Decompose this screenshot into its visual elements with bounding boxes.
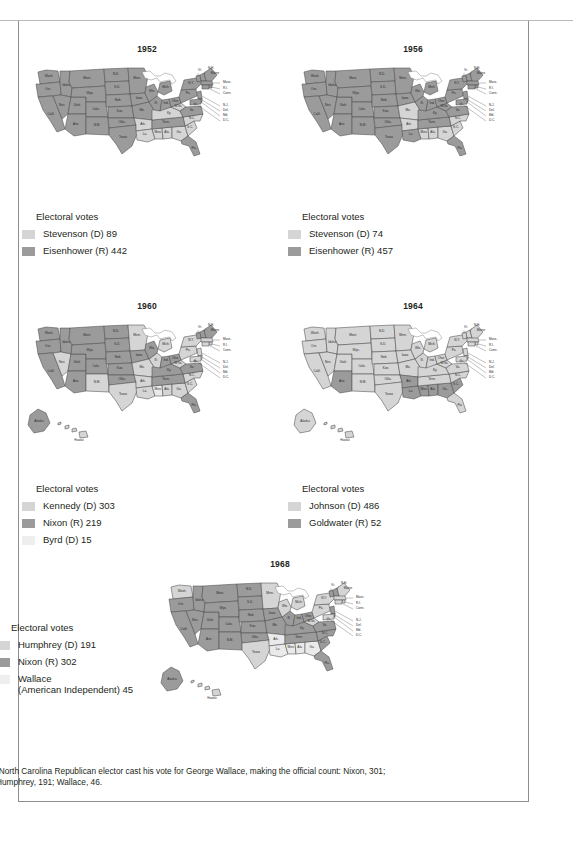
state-label: Ariz.	[73, 122, 79, 126]
state-label: Mich.	[162, 342, 170, 346]
state-label: Calif.	[47, 369, 54, 373]
state-label: Miss.	[154, 387, 161, 391]
leader-line	[468, 96, 486, 106]
state-label: N.C.	[455, 373, 461, 377]
state-hi	[191, 680, 194, 683]
legend-label: Nixon (R) 219	[43, 517, 102, 528]
state-label: Ariz.	[206, 637, 212, 641]
legend-swatch	[0, 675, 10, 684]
state-label: Ohio	[172, 99, 179, 103]
state-label: Nev.	[59, 360, 65, 364]
state-label: N.H.	[474, 66, 480, 70]
state-label: Ky.	[433, 111, 437, 115]
state-label: Neb.	[115, 355, 122, 359]
map-year-1960: 1960	[22, 301, 272, 311]
state-label: Ala.	[297, 645, 302, 649]
legend-swatch	[22, 519, 35, 528]
state-label: Ore.	[311, 344, 317, 348]
state-label: N.C.	[189, 373, 195, 377]
state-hi	[198, 683, 202, 687]
state-label: Mont.	[349, 333, 357, 337]
legend-swatch	[22, 230, 35, 239]
legend-1964: Electoral votes Johnson (D) 486 Goldwate…	[288, 483, 538, 528]
state-label: Okla.	[118, 120, 125, 124]
state-nj	[197, 91, 202, 99]
usa-map-1964: Wash.Ore.Calif.IdahoNev.UtahAriz.Mont.Wy…	[288, 311, 538, 483]
state-hi	[212, 689, 221, 696]
legend-row: Nixon (R) 302	[0, 656, 177, 667]
state-hi	[72, 428, 77, 432]
state-label: Texas	[252, 650, 261, 654]
state-label: N.C.	[322, 631, 328, 635]
state-label: Neb.	[115, 98, 122, 102]
leader-line	[468, 353, 486, 363]
state-label: N.Y.	[321, 596, 327, 600]
state-label: Wis.	[149, 89, 155, 93]
state-label: N.M.	[227, 638, 234, 642]
state-label: Mich.	[295, 600, 303, 604]
state-label: Vt.	[331, 583, 335, 587]
state-label: S.C.	[187, 382, 193, 386]
state-label: Va.	[456, 365, 461, 369]
state-ma	[467, 338, 479, 342]
state-label: N.J.	[223, 103, 229, 107]
map-panel-1952: 1952 Wash.Ore.Calif.IdahoNev.UtahAriz.Mo…	[22, 44, 272, 262]
state-label: Wyo.	[219, 606, 226, 610]
state-dc	[327, 618, 329, 620]
state-label: Mass.	[223, 337, 231, 341]
state-label: Utah	[340, 360, 347, 364]
state-label: Ind.	[429, 358, 434, 362]
state-label: Tenn.	[428, 120, 436, 124]
legend-swatch	[288, 519, 301, 528]
state-label: Minn.	[266, 591, 274, 595]
state-label: Ore.	[311, 87, 317, 91]
leader-line	[334, 617, 353, 631]
state-label: Mich.	[428, 85, 436, 89]
state-label: Vt.	[198, 325, 202, 329]
state-label: Mo.	[272, 623, 277, 627]
map-year-1964: 1964	[288, 301, 538, 311]
legend-1960: Electoral votes Kennedy (D) 303 Nixon (R…	[22, 483, 272, 545]
map-year-1968: 1968	[155, 559, 405, 569]
state-label: Miss.	[420, 387, 427, 391]
legend-swatch	[288, 502, 301, 511]
state-label: Va.	[323, 623, 328, 627]
state-label: D.C.	[223, 118, 229, 122]
state-label: Pa.	[452, 348, 457, 352]
footnote-text: North Carolina Republican elector cast h…	[0, 766, 385, 788]
state-label: Miss.	[287, 645, 294, 649]
state-label: Conn.	[356, 606, 364, 610]
state-label: Conn.	[489, 348, 497, 352]
state-ri	[209, 342, 212, 345]
state-ct	[468, 85, 475, 89]
state-label: Ohio	[438, 356, 445, 360]
state-dc	[460, 103, 462, 105]
state-label: Ariz.	[339, 379, 345, 383]
map-year-1952: 1952	[22, 44, 272, 54]
state-label: Nev.	[192, 618, 198, 622]
state-hi	[58, 422, 61, 425]
state-dc	[194, 103, 196, 105]
state-label: Ariz.	[73, 379, 79, 383]
state-label: S.D.	[380, 342, 386, 346]
state-label: N.Y.	[188, 338, 194, 342]
leader-line	[201, 102, 220, 116]
state-label: Texas	[119, 392, 128, 396]
leader-line	[478, 87, 486, 89]
usa-map-svg-1964: Wash.Ore.Calif.IdahoNev.UtahAriz.Mont.Wy…	[288, 311, 538, 483]
state-label: Ore.	[45, 344, 51, 348]
legend-1956: Electoral votes Stevenson (D) 74 Eisenho…	[288, 211, 538, 256]
state-label: N.D.	[113, 72, 119, 76]
legend-row: Goldwater (R) 52	[288, 517, 538, 528]
state-label: Maine	[477, 328, 486, 332]
state-label: Maine	[344, 586, 353, 590]
state-ma	[334, 596, 346, 600]
state-label: Ark.	[406, 122, 412, 126]
state-label: La.	[409, 389, 413, 393]
state-label: Kan.	[383, 366, 390, 370]
state-label: Hawaii	[340, 438, 350, 442]
state-label: Ohio	[305, 614, 312, 618]
legend-row: Stevenson (D) 74	[288, 228, 538, 239]
state-label: La.	[276, 647, 280, 651]
state-label: Del.	[356, 623, 362, 627]
